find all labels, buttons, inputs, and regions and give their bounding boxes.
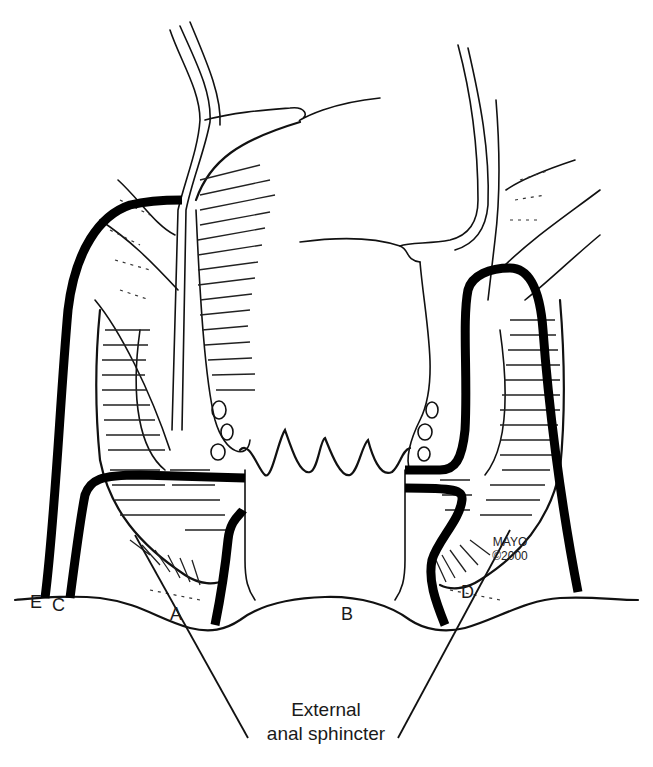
anatomical-diagram — [0, 0, 653, 767]
ischiorectal-fat — [110, 170, 550, 600]
dentate-line — [240, 430, 410, 475]
copyright-credit: MAYO ©2000 — [485, 535, 535, 563]
rectal-hatching-left — [198, 165, 275, 390]
label-C: C — [52, 596, 65, 614]
tract-A — [215, 510, 243, 625]
credit-line-2: ©2000 — [485, 549, 535, 563]
label-A: A — [170, 605, 182, 623]
skin-line — [15, 597, 638, 631]
label-E: E — [30, 593, 42, 611]
tract-E — [45, 200, 182, 598]
right-rectal-wall — [300, 45, 600, 470]
label-D: D — [461, 583, 474, 601]
credit-line-1: MAYO — [485, 535, 535, 549]
left-rectal-wall — [95, 22, 380, 460]
caption-line-2: anal sphincter — [226, 722, 426, 746]
tract-B — [405, 488, 462, 625]
caption-external-anal-sphincter: External anal sphincter — [226, 698, 426, 746]
anal-canal — [245, 470, 405, 600]
caption-line-1: External — [226, 698, 426, 722]
external-sphincter-left — [96, 310, 228, 585]
label-B: B — [341, 605, 353, 623]
